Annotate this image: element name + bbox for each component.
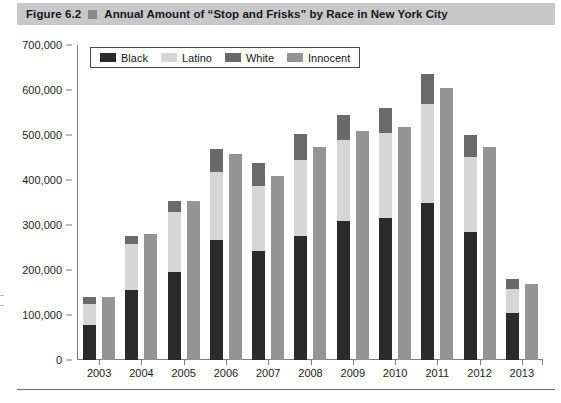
y-axis-tick-mark [66,315,72,316]
bar-segment-black [252,251,265,360]
bar-segment-latino [125,244,138,290]
bar-segment-black [337,221,350,361]
x-axis-tick-label: 2004 [129,367,153,379]
bar-segment-white [168,201,181,211]
bar-segment-white [294,134,307,160]
x-axis-tick-mark [184,360,185,365]
x-axis-tick-label: 2003 [87,367,111,379]
stacked-bar-race [168,201,181,360]
stacked-bar-race [421,74,434,360]
chart-legend: BlackLatinoWhiteInnocent [90,47,360,68]
bar-group [416,45,458,360]
legend-item-innocent: Innocent [287,52,350,64]
y-axis-labels: 700,000600,000500,000400,000300,000200,0… [0,45,72,360]
x-axis-tick-label: 2006 [214,367,238,379]
x-axis-tick-mark [480,360,481,365]
figure-title: Annual Amount of “Stop and Frisks” by Ra… [104,8,447,20]
y-axis-tick-mark [66,180,72,181]
legend-label: White [246,52,274,64]
bar-segment-black [83,325,96,360]
x-axis-tick-mark [353,360,354,365]
x-axis-tick-mark [395,360,396,365]
x-axis-tick-mark [542,360,543,365]
stacked-bar-race [210,149,223,360]
page-edge-mark [0,295,4,296]
stacked-bar-race [506,279,519,360]
bar-segment-black [168,272,181,360]
y-axis-tick-label: 500,000 [22,129,62,141]
figure-number: Figure 6.2 [26,8,81,20]
x-axis-tick-mark [141,360,142,365]
bar-segment-white [337,115,350,140]
bar-segment-latino [379,133,392,219]
legend-swatch-innocent [287,53,303,62]
legend-swatch-white [225,53,241,62]
y-axis-tick-mark [66,360,72,361]
bar-innocent [187,201,200,360]
bar-segment-black [125,290,138,360]
x-axis-tick-label: 2010 [383,367,407,379]
stacked-bar-race [294,134,307,360]
legend-label: Innocent [308,52,350,64]
bar-group [374,45,416,360]
x-axis-tick-mark [437,360,438,365]
x-axis-tick-label: 2005 [171,367,195,379]
x-axis-tick-mark [522,360,523,365]
bar-segment-black [464,232,477,360]
x-axis-tick-mark [226,360,227,365]
bar-segment-latino [337,140,350,221]
bar-segment-white [252,163,265,186]
y-axis-tick-label: 600,000 [22,84,62,96]
y-axis-tick-label: 300,000 [22,219,62,231]
stacked-bar-race [464,135,477,360]
bar-segment-latino [83,304,96,325]
bar-group [501,45,543,360]
x-axis-tick-label: 2011 [425,367,449,379]
bar-segment-white [83,297,96,304]
y-axis-tick-mark [66,270,72,271]
y-axis-tick-mark [66,45,72,46]
bar-segment-white [210,149,223,172]
bar-segment-black [210,240,223,360]
x-axis-tick-mark [311,360,312,365]
page-edge-mark [0,305,4,306]
bar-segment-white [421,74,434,103]
bar-innocent [271,176,284,361]
legend-swatch-black [100,53,116,62]
bar-segment-white [464,135,477,157]
x-axis-tick-label: 2007 [256,367,280,379]
bar-group [332,45,374,360]
bottom-divider [17,389,555,390]
bar-group [120,45,162,360]
y-axis-tick-mark [66,225,72,226]
bar-innocent [525,284,538,360]
plot-area [78,45,543,360]
stacked-bar-race [252,163,265,360]
bar-group [458,45,500,360]
bar-segment-latino [294,160,307,237]
bar-segment-white [506,279,519,289]
y-axis-tick-label: 400,000 [22,174,62,186]
bar-innocent [440,88,453,360]
bar-group [289,45,331,360]
bar-innocent [483,147,496,360]
legend-swatch-latino [161,53,177,62]
bar-segment-latino [421,104,434,203]
y-axis-tick-mark [66,135,72,136]
y-axis-tick-label: 200,000 [22,264,62,276]
stacked-bar-race [125,236,138,360]
x-axis-tick-mark [99,360,100,365]
x-axis-tick-mark [268,360,269,365]
bar-innocent [398,127,411,360]
bar-segment-black [294,236,307,360]
stacked-bar-race [379,108,392,360]
y-axis-tick-label: 700,000 [22,39,62,51]
legend-label: Black [121,52,148,64]
bar-innocent [144,234,157,360]
square-bullet-icon [88,10,97,19]
figure-page: Figure 6.2 Annual Amount of “Stop and Fr… [0,0,561,403]
bar-segment-black [421,203,434,361]
y-axis-tick-label: 0 [56,354,62,366]
bar-innocent [313,147,326,360]
bar-segment-latino [168,212,181,272]
